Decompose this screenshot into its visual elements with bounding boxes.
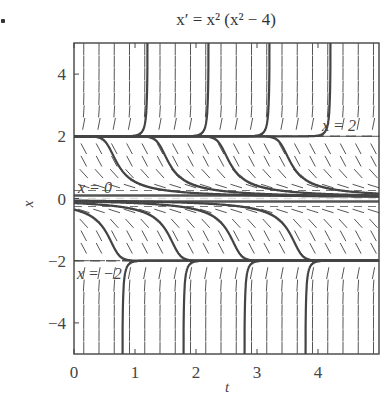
y-tick-label: 0 bbox=[58, 190, 67, 209]
x-axis-label: t bbox=[225, 379, 230, 394]
solution-curve bbox=[74, 201, 379, 260]
x-tick-label: 4 bbox=[314, 363, 323, 382]
solution-curve bbox=[74, 27, 331, 136]
equilibrium-labels: x = 2x = 0x = −2 bbox=[76, 117, 356, 282]
y-axis-label: x bbox=[20, 200, 36, 208]
equilibrium-label: x = 0 bbox=[77, 179, 112, 196]
y-tick-label: 2 bbox=[58, 127, 67, 146]
solution-curve bbox=[74, 27, 270, 136]
solution-curve bbox=[74, 27, 209, 136]
solution-curve bbox=[74, 27, 148, 136]
equilibrium-label: x = −2 bbox=[76, 265, 122, 282]
x-tick-label: 2 bbox=[192, 363, 201, 382]
solution-curve bbox=[74, 136, 379, 193]
chart-title: x′ = x² (x² − 4) bbox=[176, 10, 276, 29]
direction-field-chart: x′ = x² (x² − 4) 01234−4−2024 x = 2x = 0… bbox=[0, 0, 384, 394]
solution-curve bbox=[74, 210, 379, 261]
y-tick-label: 4 bbox=[58, 65, 67, 84]
y-tick-label: −4 bbox=[48, 314, 67, 333]
equilibrium-label: x = 2 bbox=[321, 117, 356, 134]
solution-curve bbox=[74, 203, 379, 261]
x-tick-label: 1 bbox=[131, 363, 140, 382]
x-tick-label: 0 bbox=[70, 363, 79, 382]
x-tick-label: 3 bbox=[253, 363, 262, 382]
y-tick-label: −2 bbox=[48, 252, 66, 271]
